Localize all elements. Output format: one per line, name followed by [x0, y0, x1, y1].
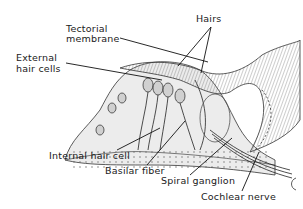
label-tectorial-membrane-line2: membrane	[66, 34, 120, 44]
label-external-hair-cells-line2: hair cells	[16, 64, 61, 74]
label-internal-hair-cell: Internal hair cell	[49, 151, 130, 161]
label-external-hair-cells-line1: External	[16, 53, 57, 63]
leader-hairs-1	[178, 27, 211, 66]
label-hairs: Hairs	[196, 14, 221, 24]
label-spiral-ganglion: Spiral ganglion	[161, 176, 235, 186]
organ-of-corti-diagram: Tectorial membrane Hairs External hair c…	[0, 0, 303, 209]
label-cochlear-nerve: Cochlear nerve	[201, 192, 276, 202]
leader-tectorial	[120, 38, 208, 62]
label-basilar-fiber: Basilar fiber	[105, 166, 165, 176]
anatomy-illustration	[0, 0, 303, 209]
leader-hairs-2	[201, 27, 211, 73]
